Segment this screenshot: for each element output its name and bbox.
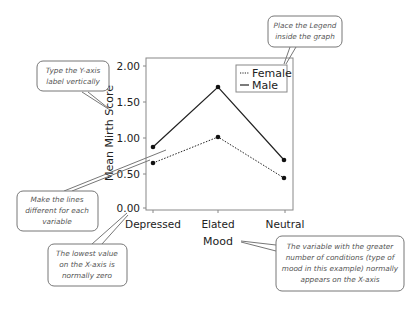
data-points <box>151 85 287 181</box>
callout-legend: Place the Legend inside the graph <box>268 16 342 64</box>
y-tick-label: 1.50 <box>117 96 140 108</box>
y-tick-label: 0.00 <box>117 202 140 214</box>
svg-text:number of conditions (type of: number of conditions (type of <box>286 253 396 262</box>
svg-text:Type the Y-axis: Type the Y-axis <box>46 66 101 75</box>
svg-text:appears on the X-axis: appears on the X-axis <box>300 275 379 284</box>
male-series-line <box>153 87 284 160</box>
svg-text:The lowest value: The lowest value <box>56 249 118 258</box>
legend-male: Male <box>252 79 278 92</box>
y-tick-label: 0.50 <box>117 168 140 180</box>
svg-text:variable: variable <box>42 217 72 226</box>
legend: Female Male <box>236 65 292 92</box>
chart-canvas: 2.00 1.50 1.00 0.50 0.00 Mean Mirth Scor… <box>0 0 414 310</box>
callout-yaxis: Type the Y-axis label vertically <box>37 61 110 110</box>
svg-text:inside the graph: inside the graph <box>275 32 335 41</box>
svg-text:Place the Legend: Place the Legend <box>274 21 337 30</box>
callout-xaxis: The variable with the greater number of … <box>241 236 404 291</box>
svg-text:on the X-axis is: on the X-axis is <box>59 260 115 269</box>
x-tick-label: Depressed <box>125 218 181 230</box>
svg-text:The variable with the greater: The variable with the greater <box>287 242 395 251</box>
svg-text:normally zero: normally zero <box>62 271 113 280</box>
y-axis-title: Mean Mirth Score <box>103 85 116 181</box>
y-tick-label: 2.00 <box>117 60 140 72</box>
x-tick-label: Elated <box>201 218 234 230</box>
female-series-line <box>153 137 284 178</box>
svg-text:mood in this example) normally: mood in this example) normally <box>282 264 399 273</box>
x-axis-title: Mood <box>203 235 233 248</box>
x-tick-label: Neutral <box>266 218 305 230</box>
svg-text:different for each: different for each <box>25 206 89 215</box>
svg-text:Make the lines: Make the lines <box>30 195 83 204</box>
y-tick-label: 1.00 <box>117 132 140 144</box>
svg-text:label vertically: label vertically <box>46 77 100 86</box>
